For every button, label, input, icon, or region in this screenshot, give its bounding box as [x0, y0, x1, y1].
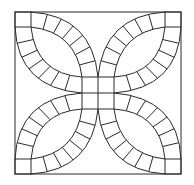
quilt-diagram	[0, 0, 194, 185]
center-block	[82, 77, 114, 109]
